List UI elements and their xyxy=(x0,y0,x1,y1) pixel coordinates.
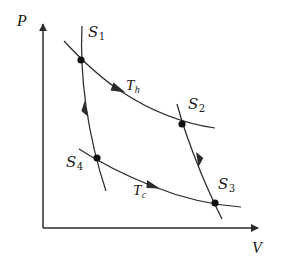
pv-diagram-canvas xyxy=(0,0,281,270)
hot-isotherm-label: Th xyxy=(126,78,140,95)
state-label-s3-subscript: 3 xyxy=(228,183,235,194)
state-label-s1-base: S xyxy=(88,23,98,41)
cold-isotherm-group xyxy=(79,149,241,207)
state-point-s4[interactable] xyxy=(93,154,100,161)
volume-axis-label: V xyxy=(252,240,262,256)
state-point-label-s1: S1 xyxy=(88,25,105,42)
state-point-label-s4: S4 xyxy=(66,155,83,172)
cold-isotherm-direction-arrow xyxy=(147,180,161,189)
state-point-label-s3: S3 xyxy=(218,177,235,194)
hot-isotherm-label-subscript: h xyxy=(134,84,140,95)
state-label-s4-subscript: 4 xyxy=(76,161,83,172)
state-point-label-s2: S2 xyxy=(188,97,205,114)
cold-isotherm-curve xyxy=(79,149,241,207)
axes-group xyxy=(43,24,258,228)
cold-isotherm-label: Tc xyxy=(133,183,146,200)
state-point-s1[interactable] xyxy=(77,56,84,63)
state-label-s1-subscript: 1 xyxy=(98,31,105,42)
state-point-s2[interactable] xyxy=(178,120,185,127)
state-point-s3[interactable] xyxy=(211,199,218,206)
hot-isotherm-direction-arrow xyxy=(111,83,126,93)
left-adiabat-direction-arrow xyxy=(81,101,88,117)
state-label-s4-base: S xyxy=(66,153,76,171)
state-label-s2-base: S xyxy=(188,95,198,113)
left-adiabat-group xyxy=(81,26,106,191)
state-label-s3-base: S xyxy=(218,175,228,193)
state-label-s2-subscript: 2 xyxy=(198,103,205,114)
cold-isotherm-label-subscript: c xyxy=(141,189,146,200)
pressure-axis-label: P xyxy=(17,13,27,29)
pv-diagram-figure: P V Th Tc S1 S2 S3 S4 xyxy=(0,0,281,270)
